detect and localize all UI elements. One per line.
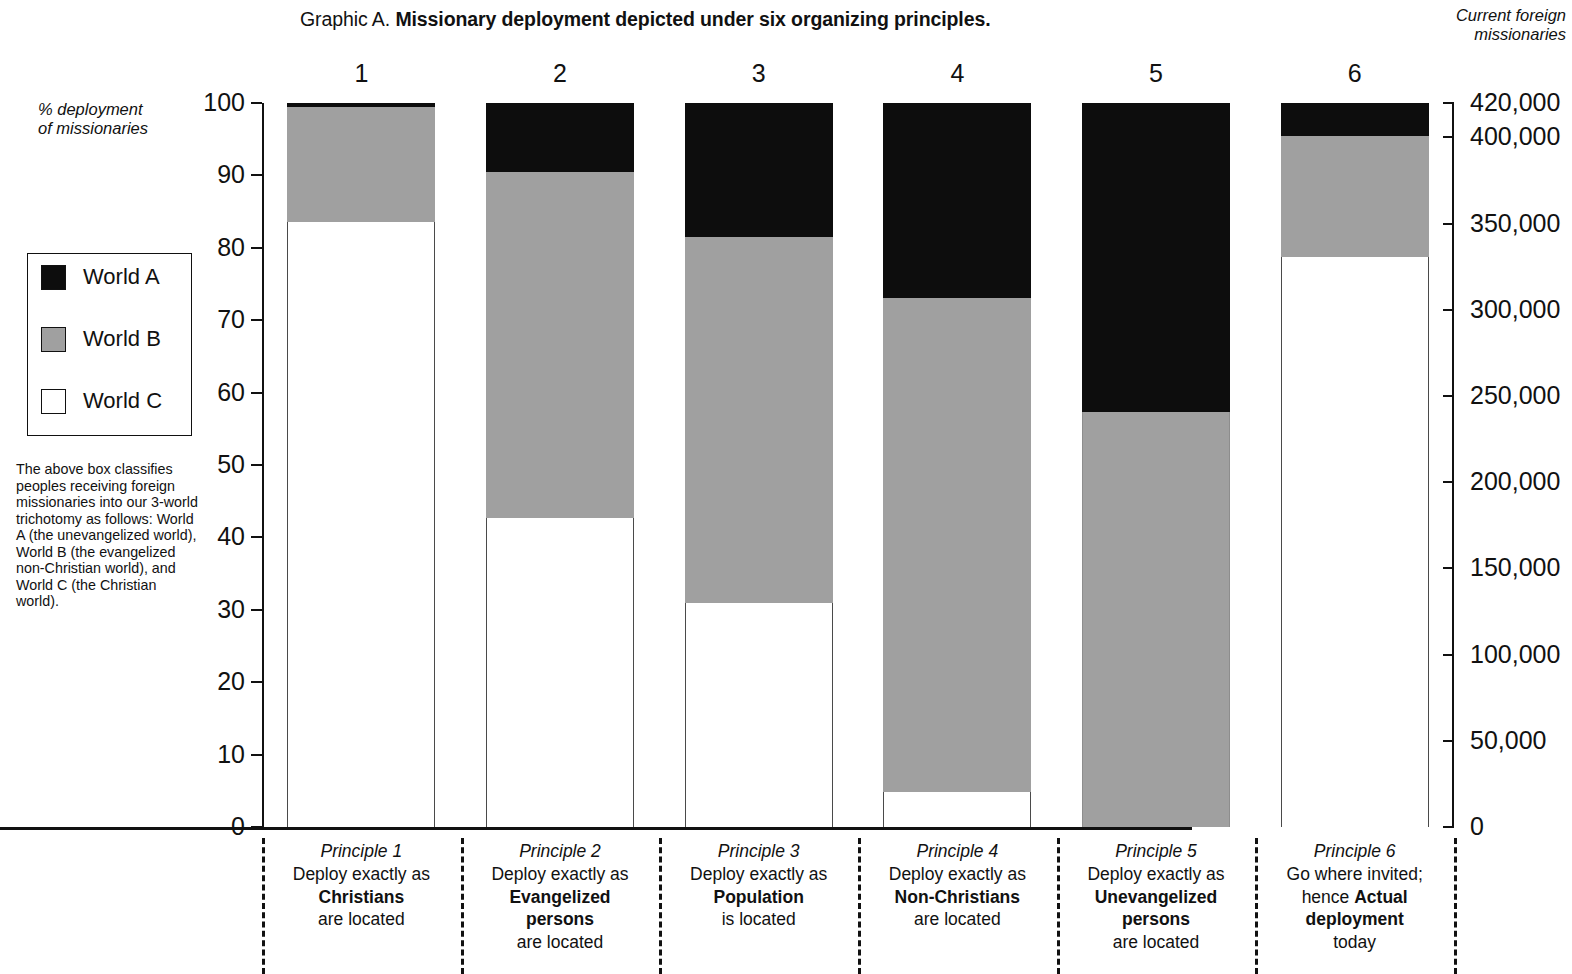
title-prefix: Graphic A.: [300, 8, 390, 30]
bar-principle-1[interactable]: [287, 103, 435, 827]
principle-strong: deployment: [1306, 909, 1404, 929]
y-tick-label-right: 400,000: [1470, 124, 1560, 149]
y-tick-label-right: 350,000: [1470, 211, 1560, 236]
y-tick-label-left: 70: [217, 307, 245, 332]
segment-world-b: [1082, 412, 1230, 827]
y-tick-left: [251, 392, 262, 394]
y-tick-label-left: 100: [203, 90, 245, 115]
principle-line-1: Go where invited;: [1263, 863, 1446, 886]
legend-note: The above box classifies peoples receivi…: [16, 461, 202, 610]
principle-line-1: Deploy exactly as: [866, 863, 1049, 886]
legend-label: World C: [83, 388, 162, 414]
y-tick-label-left: 30: [217, 597, 245, 622]
y-tick-right: [1443, 654, 1454, 656]
y-tick-left: [251, 754, 262, 756]
column-number-5: 5: [1126, 59, 1186, 88]
bar-principle-3[interactable]: [685, 103, 833, 827]
principle-separator: [858, 838, 861, 974]
y-tick-left: [251, 609, 262, 611]
principle-line-1: Deploy exactly as: [1065, 863, 1248, 886]
column-number-4: 4: [927, 59, 987, 88]
world-a-swatch: [41, 265, 66, 290]
principle-label-3: Principle 3Deploy exactly asPopulationis…: [667, 832, 850, 974]
y-tick-label-left: 40: [217, 524, 245, 549]
principle-line-3: today: [1263, 931, 1446, 954]
principle-separator: [1057, 838, 1060, 974]
y-tick-label-right: 150,000: [1470, 555, 1560, 580]
legend-item-world-b: World B: [41, 326, 161, 352]
segment-world-b: [287, 107, 435, 223]
y-tick-right: [1443, 740, 1454, 742]
bar-principle-2[interactable]: [486, 103, 634, 827]
segment-world-b: [486, 172, 634, 518]
principle-strong-line: persons: [469, 908, 652, 931]
segment-world-b: [685, 237, 833, 603]
y-tick-label-left: 80: [217, 235, 245, 260]
y-axis-right: [1452, 103, 1454, 827]
y-tick-label-right: 50,000: [1470, 728, 1546, 753]
principle-label-6: Principle 6Go where invited;hence Actual…: [1263, 832, 1446, 974]
column-number-1: 1: [331, 59, 391, 88]
principle-strong: Actual: [1354, 887, 1407, 907]
y-tick-label-right: 200,000: [1470, 469, 1560, 494]
principle-label-1: Principle 1Deploy exactly asChristiansar…: [270, 832, 453, 974]
y-tick-label-left: 20: [217, 669, 245, 694]
segment-world-c: [486, 518, 634, 827]
principle-name: Principle 3: [667, 840, 850, 863]
principle-strong-line: deployment: [1263, 908, 1446, 931]
y-tick-right: [1443, 481, 1454, 483]
principle-strong: Christians: [319, 887, 405, 907]
world-b-swatch: [41, 327, 66, 352]
segment-world-c: [685, 603, 833, 827]
bar-principle-6[interactable]: [1281, 103, 1429, 827]
principle-strong-line: Unevangelized: [1065, 886, 1248, 909]
y-tick-left: [251, 102, 262, 104]
page-title: Graphic A. Missionary deployment depicte…: [300, 8, 990, 31]
principle-separator: [461, 838, 464, 974]
principle-strong-line: Population: [667, 886, 850, 909]
y-tick-left: [251, 826, 262, 828]
segment-world-a: [1082, 103, 1230, 412]
y-tick-left: [251, 247, 262, 249]
legend-item-world-a: World A: [41, 264, 160, 290]
principle-name: Principle 1: [270, 840, 453, 863]
principle-strong: Non-Christians: [895, 887, 1020, 907]
right-axis-caption: Current foreignmissionaries: [1386, 6, 1566, 45]
principle-name: Principle 2: [469, 840, 652, 863]
principle-line-3: are located: [1065, 931, 1248, 954]
principle-strong: Unevangelized: [1095, 887, 1218, 907]
y-tick-right: [1443, 826, 1454, 828]
segment-world-c: [883, 792, 1031, 827]
y-tick-right: [1443, 102, 1454, 104]
y-tick-label-left: 60: [217, 380, 245, 405]
chart-page: Graphic A. Missionary deployment depicte…: [0, 0, 1572, 974]
y-tick-label-left: 10: [217, 742, 245, 767]
segment-world-a: [1281, 103, 1429, 136]
principle-strong: Evangelized: [509, 887, 610, 907]
bar-principle-4[interactable]: [883, 103, 1031, 827]
y-tick-label-right: 0: [1470, 814, 1484, 839]
segment-world-a: [883, 103, 1031, 298]
world-c-swatch: [41, 389, 66, 414]
principle-separator: [262, 838, 265, 974]
principle-line-3: is located: [667, 908, 850, 931]
y-tick-left: [251, 319, 262, 321]
plot-area: [262, 103, 1442, 827]
y-tick-left: [251, 174, 262, 176]
y-tick-right: [1443, 136, 1454, 138]
y-tick-right: [1443, 223, 1454, 225]
y-tick-right: [1443, 309, 1454, 311]
bar-principle-5[interactable]: [1082, 103, 1230, 827]
y-tick-left: [251, 464, 262, 466]
segment-world-b: [883, 298, 1031, 792]
principle-strong-line: Evangelized: [469, 886, 652, 909]
segment-world-c: [1281, 257, 1429, 828]
principle-strong: persons: [1122, 909, 1190, 929]
column-number-6: 6: [1325, 59, 1385, 88]
title-bold: Missionary deployment depicted under six…: [395, 8, 990, 30]
legend-label: World B: [83, 326, 161, 352]
y-tick-left: [251, 536, 262, 538]
principle-name: Principle 6: [1263, 840, 1446, 863]
principle-strong: persons: [526, 909, 594, 929]
principle-line-3: are located: [866, 908, 1049, 931]
